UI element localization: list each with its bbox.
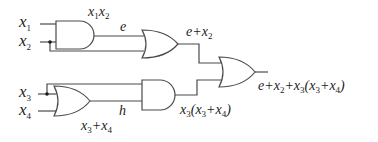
wire-e-plus-x2 <box>178 44 222 63</box>
or-gate-1 <box>142 30 178 58</box>
label-and2-output: x3(x3+x4) <box>179 102 231 119</box>
label-x2: x2 <box>18 31 31 52</box>
or-gate-3 <box>54 86 90 116</box>
label-x1: x1 <box>18 12 31 33</box>
junction-dot-x2 <box>48 40 52 44</box>
or-gate-2 <box>219 57 255 87</box>
and-gate-2 <box>142 80 175 110</box>
logic-circuit-diagram: x1 x2 x3 x4 x1x2 e e+x2 h x3+x4 x3(x3+x4… <box>0 0 378 142</box>
label-h: h <box>119 103 126 118</box>
label-or1-output: e+x2 <box>186 24 212 41</box>
label-e: e <box>120 19 126 34</box>
and-gate-1 <box>56 21 94 49</box>
wire-and2-out <box>175 80 222 95</box>
label-and1-output: x1x2 <box>87 4 109 21</box>
label-x4: x4 <box>18 100 32 121</box>
label-or3-output: x3+x4 <box>80 118 112 135</box>
label-final-output: e+x2+x3(x3+x4) <box>258 78 345 95</box>
junction-dot-x3 <box>45 92 49 96</box>
